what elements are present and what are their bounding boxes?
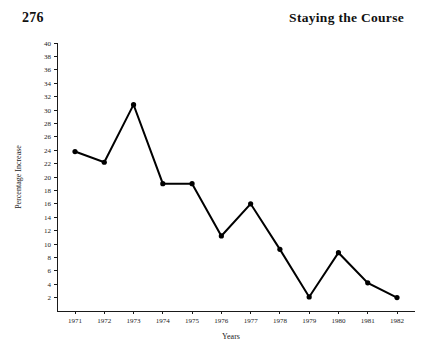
y-tick-label: 12 [44, 227, 52, 235]
x-tick-label: 1972 [97, 317, 112, 325]
x-tick-label: 1982 [390, 317, 405, 325]
x-axis-title: Years [222, 332, 240, 341]
y-tick-label: 14 [44, 214, 52, 222]
y-tick-label: 16 [44, 200, 52, 208]
x-tick-label: 1975 [185, 317, 200, 325]
page-header: 276 Staying the Course [0, 10, 422, 32]
y-tick-label: 8 [48, 254, 52, 262]
y-tick-label: 6 [48, 267, 52, 275]
x-tick-label: 1979 [302, 317, 317, 325]
series-line [75, 105, 397, 298]
x-tick-label: 1971 [68, 317, 83, 325]
y-tick-label: 26 [44, 133, 52, 141]
y-axis-title: Percentage Increase [14, 145, 23, 209]
y-tick-label: 2 [48, 294, 52, 302]
y-axis-ticks: 246810121416182022242628303234363840 [44, 40, 57, 303]
data-point-marker [277, 247, 282, 252]
data-point-marker [394, 295, 399, 300]
x-tick-label: 1974 [156, 317, 171, 325]
data-point-marker [160, 181, 165, 186]
series-points [72, 102, 399, 300]
y-tick-label: 18 [44, 187, 52, 195]
data-point-marker [102, 160, 107, 165]
data-point-marker [72, 149, 77, 154]
y-tick-label: 32 [44, 93, 52, 101]
data-point-marker [248, 201, 253, 206]
y-tick-label: 4 [48, 281, 52, 289]
x-tick-label: 1973 [127, 317, 142, 325]
y-tick-label: 36 [44, 66, 52, 74]
x-tick-label: 1976 [214, 317, 229, 325]
y-tick-label: 24 [44, 147, 52, 155]
x-tick-label: 1978 [273, 317, 288, 325]
y-axis: 246810121416182022242628303234363840 Per… [14, 40, 57, 312]
y-tick-label: 30 [44, 107, 52, 115]
data-series [72, 102, 399, 300]
x-axis-ticks: 1971197219731974197519761977197819791980… [68, 311, 405, 325]
running-head-title: Staying the Course [289, 10, 404, 26]
y-tick-label: 20 [44, 174, 52, 182]
y-tick-label: 28 [44, 120, 52, 128]
page-number: 276 [22, 10, 44, 26]
x-axis: 1971197219731974197519761977197819791980… [57, 311, 415, 341]
data-point-marker [189, 181, 194, 186]
x-tick-label: 1980 [331, 317, 346, 325]
y-tick-label: 34 [44, 80, 52, 88]
x-tick-label: 1981 [361, 317, 376, 325]
line-chart-figure: 246810121416182022242628303234363840 Per… [0, 32, 422, 358]
data-point-marker [131, 102, 136, 107]
y-tick-label: 38 [44, 53, 52, 61]
data-point-marker [336, 250, 341, 255]
x-tick-label: 1977 [244, 317, 259, 325]
y-tick-label: 40 [44, 40, 52, 48]
data-point-marker [365, 280, 370, 285]
y-tick-label: 22 [44, 160, 52, 168]
data-point-marker [307, 294, 312, 299]
y-tick-label: 10 [44, 241, 52, 249]
chart-canvas: 246810121416182022242628303234363840 Per… [0, 32, 422, 358]
data-point-marker [219, 233, 224, 238]
